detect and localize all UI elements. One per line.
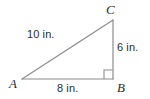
side-label-base: 8 in. — [57, 83, 78, 94]
vertex-label-c: C — [106, 3, 115, 16]
right-angle-square-icon — [104, 70, 113, 79]
side-label-hypotenuse: 10 in. — [27, 29, 55, 40]
vertex-label-a: A — [9, 77, 17, 90]
vertex-label-b: B — [117, 81, 125, 94]
right-triangle-figure: 10 in. 6 in. 8 in. A B C — [0, 0, 150, 99]
side-label-vertical-leg: 6 in. — [117, 42, 138, 53]
